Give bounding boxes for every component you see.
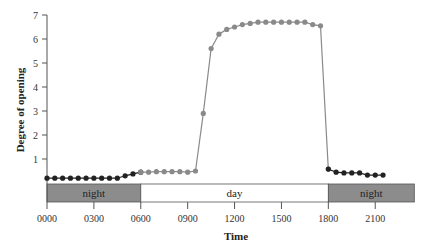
x-axis-label: Time [224, 230, 248, 242]
chart: nightdaynight 12345670000030006000900120… [0, 0, 427, 247]
day-night-bands: nightdaynight [47, 184, 414, 202]
x-tick-label: 2100 [365, 213, 385, 224]
data-point [302, 20, 307, 25]
x-tick-label: 1800 [318, 213, 338, 224]
data-point [380, 172, 385, 177]
data-point [154, 169, 159, 174]
data-point [224, 27, 229, 32]
data-point [279, 20, 284, 25]
data-point [201, 111, 206, 116]
series-1 [138, 20, 331, 175]
data-point [130, 171, 135, 176]
data-series [44, 20, 385, 181]
data-point [341, 170, 346, 175]
data-point [349, 170, 354, 175]
x-tick-label: 0900 [178, 213, 198, 224]
y-tick-label: 2 [33, 130, 38, 141]
data-point [334, 170, 339, 175]
data-point [115, 176, 120, 181]
data-point [255, 20, 260, 25]
y-tick-label: 1 [33, 154, 38, 165]
x-tick-label: 0300 [84, 213, 104, 224]
x-tick-label: 0000 [37, 213, 57, 224]
data-point [169, 169, 174, 174]
data-point [373, 172, 378, 177]
band-label: night [83, 187, 106, 199]
y-tick-label: 3 [33, 106, 38, 117]
data-point [52, 176, 57, 181]
data-point [193, 168, 198, 173]
data-point [123, 173, 128, 178]
band-label: night [360, 187, 383, 199]
y-tick-label: 4 [33, 82, 38, 93]
x-tick-label: 1200 [225, 213, 245, 224]
data-point [365, 172, 370, 177]
data-point [76, 176, 81, 181]
data-point [44, 176, 49, 181]
series-0 [44, 170, 143, 181]
data-point [287, 20, 292, 25]
data-point [209, 46, 214, 51]
data-point [60, 176, 65, 181]
series-line [141, 22, 328, 172]
y-tick-label: 5 [33, 58, 38, 69]
y-tick-label: 7 [33, 10, 38, 21]
x-tick-label: 1500 [271, 213, 291, 224]
data-point [146, 170, 151, 175]
y-axis-label: Degree of opening [14, 67, 26, 152]
data-point [294, 20, 299, 25]
data-point [138, 170, 143, 175]
y-tick-label: 6 [33, 34, 38, 45]
x-tick-label: 0600 [131, 213, 151, 224]
data-point [99, 176, 104, 181]
data-point [318, 23, 323, 28]
data-point [240, 22, 245, 27]
data-point [248, 21, 253, 26]
data-point [216, 32, 221, 37]
data-point [357, 170, 362, 175]
data-point [271, 20, 276, 25]
data-point [91, 176, 96, 181]
data-point [83, 176, 88, 181]
data-point [177, 169, 182, 174]
data-point [326, 166, 331, 171]
data-point [68, 176, 73, 181]
data-point [232, 24, 237, 29]
series-2 [326, 166, 386, 177]
data-point [310, 22, 315, 27]
data-point [185, 170, 190, 175]
data-point [162, 169, 167, 174]
data-point [107, 176, 112, 181]
data-point [263, 20, 268, 25]
band-label: day [227, 187, 243, 199]
